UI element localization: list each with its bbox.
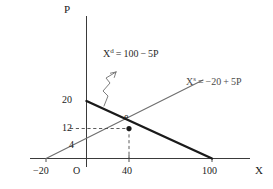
equilibrium-point bbox=[126, 126, 131, 131]
x-tick-label-100: 100 bbox=[202, 166, 217, 176]
y-tick-label-12: 12 bbox=[62, 123, 72, 133]
supply-curve-label: Xs = −20 + 5P bbox=[186, 76, 241, 87]
chart-figure: P X 20 12 4 −20 O 40 100 Xd = 100 − 5P X… bbox=[0, 0, 273, 189]
x-axis-label: X bbox=[255, 165, 263, 176]
x-tick-label-minus20: −20 bbox=[33, 166, 49, 176]
demand-label-equation: = 100 − 5P bbox=[114, 48, 159, 59]
origin-label: O bbox=[73, 166, 80, 176]
y-tick-label-4: 4 bbox=[69, 140, 74, 150]
y-axis-label: P bbox=[64, 4, 70, 15]
demand-curve-label: Xd = 100 − 5P bbox=[103, 48, 159, 59]
demand-curve bbox=[87, 101, 213, 159]
x-tick-label-40: 40 bbox=[122, 166, 132, 176]
supply-label-equation: = −20 + 5P bbox=[196, 76, 242, 87]
y-tick-label-20: 20 bbox=[62, 95, 72, 105]
equilibrium-label: e bbox=[124, 112, 128, 122]
supply-demand-plot bbox=[0, 0, 273, 189]
